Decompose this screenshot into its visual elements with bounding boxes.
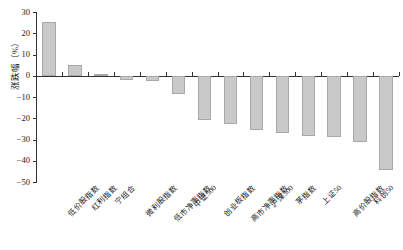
x-tick-mark — [114, 72, 115, 76]
bar — [302, 76, 315, 136]
x-tick-mark — [36, 72, 37, 76]
y-tick-mark — [33, 118, 37, 119]
bar — [276, 76, 289, 133]
y-tick-label: 20 — [6, 29, 30, 38]
bar — [94, 74, 107, 76]
bar — [198, 76, 211, 120]
y-tick-label: −50 — [6, 178, 30, 187]
bar — [224, 76, 237, 124]
x-tick-mark — [62, 72, 63, 76]
bar — [353, 76, 366, 142]
x-tick-label: 上证50 — [321, 184, 343, 206]
bar — [379, 76, 392, 170]
bar — [42, 22, 55, 76]
bar — [172, 76, 185, 94]
x-tick-mark — [399, 72, 400, 76]
x-tick-mark — [243, 72, 244, 76]
x-tick-mark — [140, 72, 141, 76]
x-tick-label: 沪深300 — [270, 184, 295, 209]
y-tick-label: 10 — [6, 50, 30, 59]
bar — [120, 76, 133, 80]
y-tick-mark — [33, 140, 37, 141]
y-tick-mark — [33, 76, 37, 77]
x-tick-mark — [166, 72, 167, 76]
y-tick-mark — [33, 12, 37, 13]
x-tick-mark — [295, 72, 296, 76]
x-tick-label: 茅指数 — [295, 184, 317, 206]
zero-baseline — [36, 76, 399, 77]
y-tick-label: −30 — [6, 135, 30, 144]
bar — [327, 76, 340, 137]
x-tick-mark — [373, 72, 374, 76]
y-tick-label: 30 — [6, 8, 30, 17]
x-tick-label: 微利股指数 — [144, 184, 178, 218]
y-tick-mark — [33, 33, 37, 34]
bar — [250, 76, 263, 131]
x-tick-mark — [218, 72, 219, 76]
y-tick-label: −10 — [6, 93, 30, 102]
x-tick-mark — [192, 72, 193, 76]
bar — [68, 65, 81, 75]
y-tick-mark — [33, 97, 37, 98]
y-tick-mark — [33, 55, 37, 56]
x-tick-mark — [269, 72, 270, 76]
y-tick-mark — [33, 161, 37, 162]
x-tick-label: 创业板指数 — [222, 184, 256, 218]
y-axis-tick-labels: 3020100−10−20−30−40−50 — [4, 0, 30, 250]
bar — [146, 76, 159, 81]
y-tick-label: −20 — [6, 114, 30, 123]
y-tick-label: 0 — [6, 71, 30, 80]
y-tick-label: −40 — [6, 156, 30, 165]
x-axis-tick-labels: 低价股指数红利指数宁组合微利股指数低市净率指数中证500创业板指数高市净率指数沪… — [36, 182, 399, 250]
bar-chart: 涨跌幅（%） 3020100−10−20−30−40−50 低价股指数红利指数宁… — [0, 0, 403, 250]
plot-area — [36, 12, 399, 182]
x-tick-mark — [321, 72, 322, 76]
x-tick-mark — [347, 72, 348, 76]
x-tick-mark — [88, 72, 89, 76]
